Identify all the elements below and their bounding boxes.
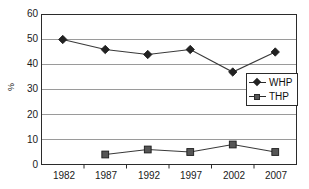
x-axis-ticks — [84, 165, 254, 169]
square-marker-icon — [249, 91, 266, 103]
legend-item-whp: WHP — [249, 76, 297, 90]
legend-label: THP — [269, 91, 289, 103]
x-axis-tick-label: 1982 — [42, 170, 86, 182]
series-line-whp — [63, 40, 276, 73]
data-point-whp — [186, 45, 194, 53]
data-point-whp — [229, 68, 237, 76]
legend-item-thp: THP — [249, 90, 297, 104]
diamond-marker-icon — [249, 77, 266, 89]
data-point-whp — [271, 48, 279, 56]
data-point-whp — [59, 35, 67, 43]
x-axis-tick-label: 2002 — [212, 170, 256, 182]
x-axis-tick-label: 1992 — [127, 170, 171, 182]
data-point-thp — [144, 146, 151, 153]
x-axis-tick-label: 2007 — [254, 170, 298, 182]
x-axis-tick-label: 1987 — [84, 170, 128, 182]
line-chart: % 60 50 40 30 20 10 0 1982 1987 1992 199… — [0, 0, 309, 189]
data-point-thp — [229, 141, 236, 148]
x-axis-tick-label: 1997 — [169, 170, 213, 182]
data-point-thp — [102, 151, 109, 158]
legend-label: WHP — [269, 77, 292, 89]
data-point-whp — [144, 50, 152, 58]
chart-legend: WHP THP — [246, 73, 298, 106]
data-point-whp — [101, 45, 109, 53]
data-point-thp — [272, 149, 279, 156]
data-point-thp — [187, 149, 194, 156]
